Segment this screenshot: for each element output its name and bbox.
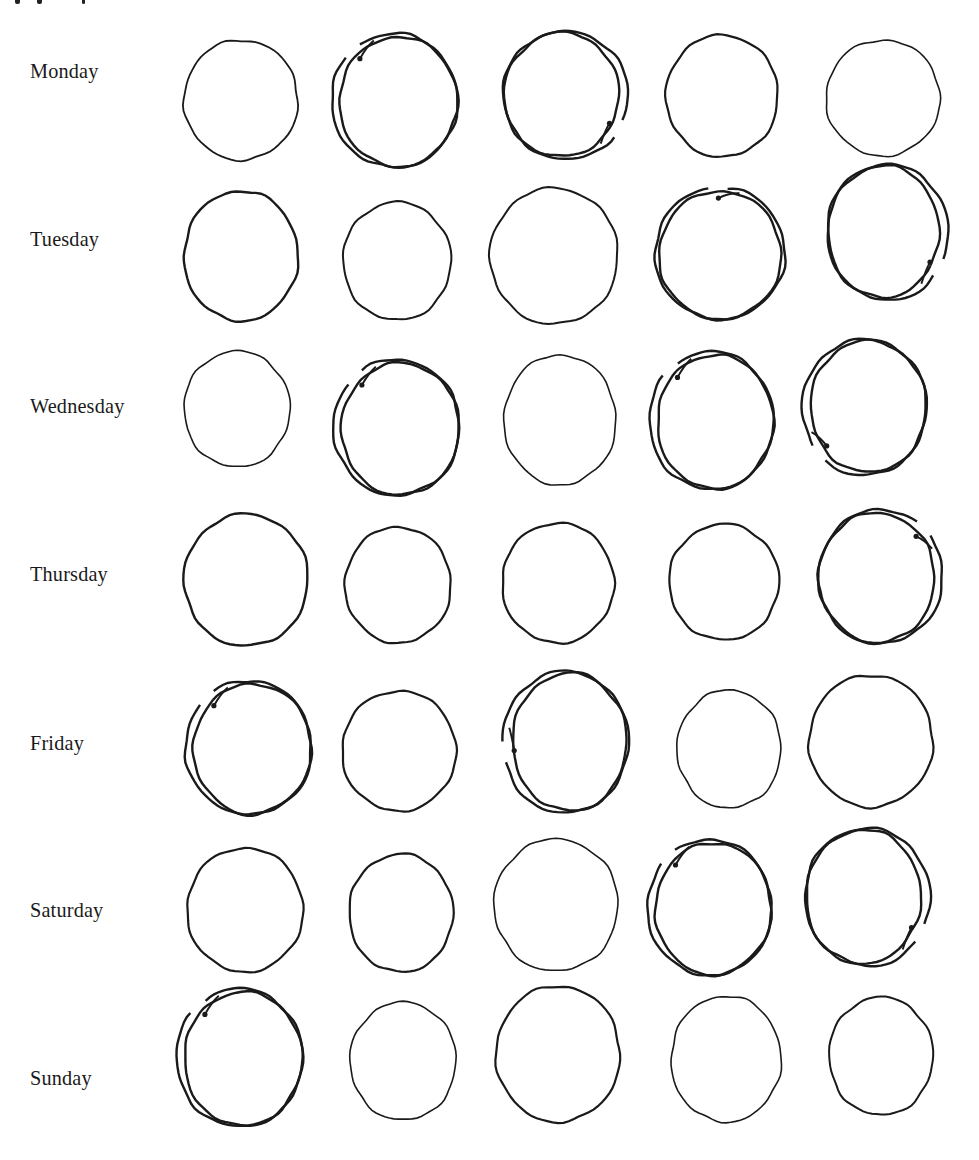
drawn-circle xyxy=(669,524,779,640)
drawn-circle xyxy=(502,670,629,812)
drawn-circle xyxy=(647,839,771,976)
drawn-circle xyxy=(805,828,931,967)
drawn-circle xyxy=(655,188,786,320)
drawn-circle xyxy=(333,360,459,496)
drawn-circle xyxy=(503,31,628,159)
drawn-circle xyxy=(184,192,299,322)
drawn-circle xyxy=(343,201,452,319)
drawn-circle xyxy=(495,987,620,1123)
drawn-circle xyxy=(494,838,618,970)
drawn-circle xyxy=(177,988,304,1126)
drawn-circle xyxy=(489,187,617,324)
drawn-circle xyxy=(184,350,290,466)
drawn-circle xyxy=(802,339,927,475)
drawn-circle xyxy=(350,853,454,971)
drawn-circle xyxy=(503,523,615,644)
drawn-circle xyxy=(665,34,777,157)
drawn-circle xyxy=(829,996,933,1114)
drawn-circle xyxy=(344,527,450,643)
drawn-circle xyxy=(183,41,298,162)
drawn-circle xyxy=(343,691,457,812)
drawn-circle xyxy=(333,33,459,168)
drawn-circle xyxy=(650,351,775,490)
drawn-circle xyxy=(677,690,781,808)
drawn-circle xyxy=(671,997,782,1123)
drawn-circle xyxy=(187,848,303,972)
drawn-circle xyxy=(817,509,941,644)
circle-drawing-grid xyxy=(0,0,979,1160)
drawn-circle xyxy=(828,164,949,300)
drawn-circle xyxy=(504,355,616,485)
drawn-circle xyxy=(185,681,312,816)
drawn-circle xyxy=(350,1001,457,1119)
drawn-circle xyxy=(827,40,941,157)
drawn-circle xyxy=(808,676,934,809)
drawn-circle xyxy=(183,513,307,645)
